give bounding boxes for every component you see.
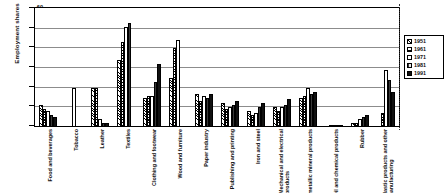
legend-item[interactable]: 1971 [407, 53, 442, 61]
legend-label: 1971 [414, 54, 426, 60]
legend-item[interactable]: 1981 [407, 61, 442, 69]
x-axis-label: Plastic products and othermanufacturing [383, 129, 394, 193]
bar-groups [35, 8, 399, 127]
x-axis-label-cell: Wood and furniture [165, 129, 191, 193]
x-axis-label: Food and beverages [48, 129, 54, 181]
legend-label: 1981 [414, 62, 426, 68]
x-axis-label-cell: Oil and chemical products [321, 129, 347, 193]
x-axis-label: Wood and furniture [178, 129, 184, 179]
bar-group [35, 8, 61, 127]
bar [261, 103, 265, 127]
bar-group [165, 8, 191, 127]
bar [235, 101, 239, 127]
bar-group [217, 8, 243, 127]
bar-group [347, 8, 373, 127]
x-axis-label: Iron and steel [256, 129, 262, 164]
legend-label: 1991 [414, 70, 426, 76]
legend-swatch [407, 63, 412, 68]
x-axis-label-cell: Rubber [347, 129, 373, 193]
x-axis-labels: Food and beveragesTobaccoLeatherTextiles… [35, 129, 399, 193]
bar-group [61, 8, 87, 127]
x-axis-label-cell: Textiles [113, 129, 139, 193]
bar [339, 125, 343, 127]
x-axis-label: Leather [100, 129, 106, 148]
bar [53, 117, 57, 127]
bar-group [243, 8, 269, 127]
legend: 19511961197119811991 [404, 35, 444, 79]
bar [313, 92, 317, 127]
legend-label: 1961 [414, 46, 426, 52]
bar [72, 88, 76, 127]
x-axis-label-cell: Publishing and printing [217, 129, 243, 193]
bar-group [269, 8, 295, 127]
chart-root: Employment shares 0102030405060 Food and… [0, 0, 446, 193]
bar [128, 23, 132, 127]
bar-group [191, 8, 217, 127]
x-axis-label-cell: Leather [87, 129, 113, 193]
legend-item[interactable]: 1951 [407, 37, 442, 45]
legend-item[interactable]: 1961 [407, 45, 442, 53]
x-axis-label-cell: Non-metallic mineral products [295, 129, 321, 193]
x-axis-label: Textiles [126, 129, 132, 149]
legend-swatch [407, 71, 412, 76]
x-axis-label: Oil and chemical products [334, 129, 340, 193]
x-axis-label: Rubber [360, 129, 366, 148]
x-axis-label: Non-metallic mineral products [308, 129, 314, 193]
legend-swatch [407, 47, 412, 52]
bar-group [113, 8, 139, 127]
x-axis-label-cell: Mechanical and electricalproducts [269, 129, 295, 193]
bar [176, 40, 180, 127]
bar [287, 99, 291, 127]
x-axis-label: Clothing and footwear [152, 129, 158, 186]
x-axis-label: Paper industry [204, 129, 210, 167]
x-axis-label-cell: Paper industry [191, 129, 217, 193]
x-axis-label: Mechanical and electricalproducts [279, 129, 290, 193]
x-axis-label-cell: Iron and steel [243, 129, 269, 193]
bar [105, 123, 109, 127]
x-axis-label-cell: Tobacco [61, 129, 87, 193]
bar-group [87, 8, 113, 127]
legend-label: 1951 [414, 38, 426, 44]
x-axis-label-cell: Clothing and footwear [139, 129, 165, 193]
bar-group [321, 8, 347, 127]
bar-group [139, 8, 165, 127]
bar [365, 115, 369, 127]
bar-group [373, 8, 399, 127]
bar-group [295, 8, 321, 127]
bar [391, 92, 395, 127]
x-axis-label-cell: Plastic products and othermanufacturing [373, 129, 399, 193]
legend-swatch [407, 39, 412, 44]
legend-item[interactable]: 1991 [407, 69, 442, 77]
bar [157, 64, 161, 127]
x-axis-label: Tobacco [74, 129, 80, 151]
legend-swatch [407, 55, 412, 60]
legend-divider [399, 4, 400, 130]
x-axis-label: Publishing and printing [230, 129, 236, 189]
bar [209, 94, 213, 127]
x-axis-label-cell: Food and beverages [35, 129, 61, 193]
